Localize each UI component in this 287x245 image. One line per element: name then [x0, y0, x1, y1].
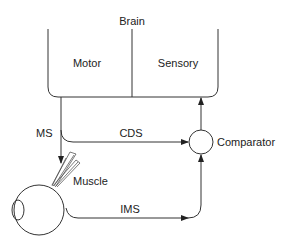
ims-to-comparator-arrow — [188, 155, 201, 218]
ms-label: MS — [36, 127, 53, 139]
comparator-circle — [189, 130, 213, 154]
comparator-label: Comparator — [217, 136, 275, 148]
ims-label: IMS — [120, 203, 140, 215]
muscle-label: Muscle — [73, 175, 108, 187]
brain-title: Brain — [119, 15, 145, 27]
eye-icon — [12, 185, 64, 235]
sensory-label: Sensory — [158, 57, 199, 69]
motor-label: Motor — [73, 57, 101, 69]
cds-label: CDS — [119, 127, 142, 139]
efference-copy-diagram: Brain Motor Sensory MS CDS Comparator IM… — [0, 0, 287, 245]
